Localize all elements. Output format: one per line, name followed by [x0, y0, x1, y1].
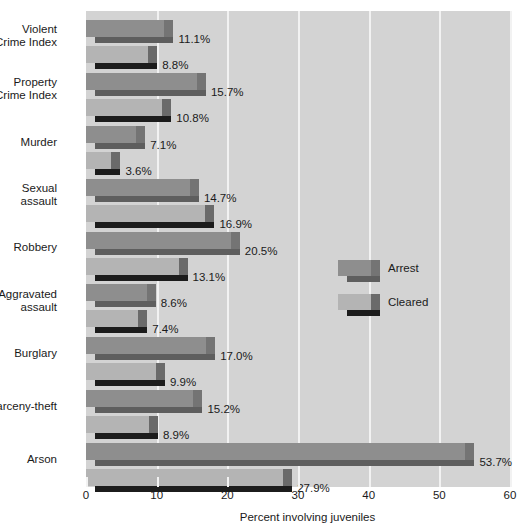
x-tick-label: 10	[150, 489, 163, 501]
value-label-arrest: 17.0%	[220, 350, 253, 362]
plot-area: Violent Crime Index11.1%8.8%Property Cri…	[86, 11, 510, 487]
bar-cleared[interactable]	[86, 258, 179, 275]
x-tick-mark	[157, 477, 159, 487]
bar-arrest[interactable]	[86, 20, 164, 37]
bar-cleared[interactable]	[86, 99, 162, 116]
bar-arrest[interactable]	[86, 443, 465, 460]
category-group: Larceny-theft15.2%8.9%	[86, 381, 510, 434]
bar-cleared[interactable]	[86, 363, 156, 380]
value-label-arrest: 53.7%	[479, 456, 512, 468]
legend-swatch-cleared-icon	[338, 294, 380, 318]
category-label: Violent Crime Index	[0, 23, 57, 49]
bar-arrest[interactable]	[86, 390, 193, 407]
category-group: Murder7.1%3.6%	[86, 117, 510, 170]
x-tick-mark	[369, 477, 371, 487]
x-tick-label: 0	[83, 489, 89, 501]
category-label: Aggravated assault	[0, 288, 57, 314]
x-tick-label: 40	[362, 489, 375, 501]
chart-legend: Arrest Cleared	[338, 260, 458, 328]
legend-item-cleared[interactable]: Cleared	[338, 294, 458, 328]
x-tick-mark	[439, 477, 441, 487]
x-tick-label: 30	[292, 489, 305, 501]
category-group: Burglary17.0%9.9%	[86, 328, 510, 381]
category-group: Sexual assault14.7%16.9%	[86, 170, 510, 223]
value-label-arrest: 20.5%	[245, 245, 278, 257]
category-group: Property Crime Index15.7%10.8%	[86, 64, 510, 117]
x-axis-title-text: Percent involving juveniles	[240, 511, 376, 523]
bar-cleared[interactable]	[86, 310, 138, 327]
category-label: Arson	[0, 453, 57, 466]
x-axis-title: Percent involving juveniles	[0, 511, 529, 523]
bar-arrest[interactable]	[86, 179, 190, 196]
x-tick-mark	[298, 477, 300, 487]
legend-item-arrest[interactable]: Arrest	[338, 260, 458, 294]
bar-cleared[interactable]	[86, 205, 205, 222]
x-tick-mark	[510, 477, 512, 487]
bar-arrest[interactable]	[86, 232, 231, 249]
value-label-arrest: 8.6%	[161, 297, 187, 309]
bar-arrest[interactable]	[86, 337, 206, 354]
bar-arrest[interactable]	[86, 126, 136, 143]
x-tick-label: 50	[433, 489, 446, 501]
bar-cleared[interactable]	[86, 46, 148, 63]
category-label: Robbery	[0, 241, 57, 254]
value-label-arrest: 14.7%	[204, 192, 237, 204]
category-label: Burglary	[0, 347, 57, 360]
bar-chart: Violent Crime Index11.1%8.8%Property Cri…	[0, 0, 529, 530]
value-label-arrest: 15.7%	[211, 86, 244, 98]
legend-label-arrest: Arrest	[388, 262, 419, 274]
category-group: Violent Crime Index11.1%8.8%	[86, 11, 510, 64]
category-label: Sexual assault	[0, 182, 57, 208]
bar-arrest[interactable]	[86, 284, 147, 301]
bar-arrest[interactable]	[86, 73, 197, 90]
value-label-arrest: 11.1%	[178, 33, 210, 45]
legend-swatch-arrest-icon	[338, 260, 380, 284]
category-label: Larceny-theft	[0, 400, 57, 413]
gridline-60	[510, 11, 512, 487]
bar-cleared[interactable]	[86, 416, 149, 433]
x-tick-label: 60	[504, 489, 517, 501]
x-tick-mark	[86, 477, 88, 487]
legend-label-cleared: Cleared	[388, 296, 428, 308]
value-label-arrest: 15.2%	[207, 403, 240, 415]
x-tick-mark	[227, 477, 229, 487]
bar-cleared[interactable]	[86, 469, 283, 486]
bar-cleared[interactable]	[86, 152, 111, 169]
x-axis: 0102030405060	[86, 487, 510, 495]
x-tick-label: 20	[221, 489, 234, 501]
category-label: Murder	[0, 136, 57, 149]
category-label: Property Crime Index	[0, 76, 57, 102]
value-label-arrest: 7.1%	[150, 139, 176, 151]
